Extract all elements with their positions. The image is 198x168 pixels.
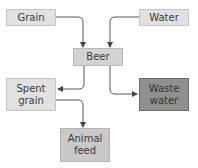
node-label: Spent grain bbox=[16, 83, 45, 107]
node-label: Grain bbox=[17, 12, 44, 24]
node-beer: Beer bbox=[73, 48, 123, 66]
edge-water-beer bbox=[110, 17, 139, 47]
node-waste-water: Waste water bbox=[139, 78, 189, 111]
node-water: Water bbox=[139, 9, 189, 26]
edge-beer-spentgrain bbox=[58, 66, 84, 89]
edge-spentgrain-animalfeed bbox=[56, 100, 83, 127]
node-animal-feed: Animal feed bbox=[60, 128, 110, 162]
node-grain: Grain bbox=[6, 9, 56, 26]
node-label: Waste water bbox=[149, 83, 180, 107]
edge-beer-wastewater bbox=[110, 66, 137, 94]
node-spent-grain: Spent grain bbox=[6, 78, 56, 111]
node-label: Animal feed bbox=[68, 133, 103, 157]
node-label: Beer bbox=[86, 51, 109, 63]
node-label: Water bbox=[149, 12, 179, 24]
edge-grain-beer bbox=[56, 17, 83, 47]
